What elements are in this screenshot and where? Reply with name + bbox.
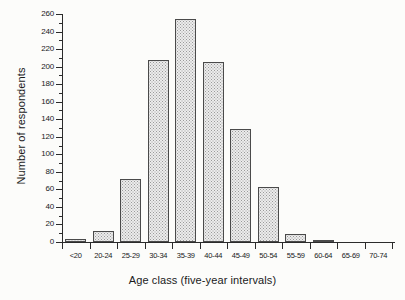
y-tick-mark	[56, 154, 62, 155]
y-tick-mark	[56, 119, 62, 120]
y-tick-label: 260	[41, 10, 54, 18]
y-minor-tick-mark	[59, 75, 62, 76]
bar	[65, 239, 86, 242]
x-tick-mark	[117, 243, 118, 249]
x-tick-mark	[337, 243, 338, 249]
y-tick-label: 0	[50, 238, 54, 246]
y-minor-tick-mark	[59, 198, 62, 199]
y-tick-mark	[56, 84, 62, 85]
plot-area: 020406080100120140160180200220240260	[62, 14, 392, 242]
y-tick-mark	[56, 67, 62, 68]
x-tick-label: 25-29	[122, 252, 140, 260]
y-minor-tick-mark	[59, 110, 62, 111]
bar	[203, 62, 224, 242]
x-axis-ticks	[62, 243, 395, 249]
x-tick-mark	[365, 243, 366, 249]
y-tick-label: 60	[46, 185, 55, 193]
x-tick-mark	[172, 243, 173, 249]
x-tick-label: 60-64	[314, 252, 332, 260]
x-tick-mark	[62, 243, 63, 249]
y-tick-label: 20	[46, 220, 55, 228]
bar	[230, 129, 251, 242]
y-axis-title: Number of respondents	[15, 41, 27, 211]
x-tick-mark	[227, 243, 228, 249]
x-tick-mark	[200, 243, 201, 249]
x-tick-mark	[255, 243, 256, 249]
y-tick-mark	[56, 49, 62, 50]
x-axis-tick-labels: <2020-2425-2930-3435-3940-4445-4950-5455…	[62, 252, 395, 266]
y-tick-mark	[56, 137, 62, 138]
y-minor-tick-mark	[59, 181, 62, 182]
y-minor-tick-mark	[59, 128, 62, 129]
y-tick-mark	[56, 189, 62, 190]
bar	[313, 240, 334, 242]
x-axis-title: Age class (five-year intervals)	[0, 274, 405, 286]
y-tick-mark	[56, 102, 62, 103]
bar	[120, 179, 141, 242]
x-tick-label: 45-49	[232, 252, 250, 260]
y-minor-tick-mark	[59, 233, 62, 234]
chart-figure: Number of respondents 020406080100120140…	[0, 0, 405, 300]
y-tick-label: 200	[41, 63, 54, 71]
x-tick-mark	[282, 243, 283, 249]
y-tick-label: 40	[46, 203, 55, 211]
y-minor-tick-mark	[59, 23, 62, 24]
y-tick-mark	[56, 32, 62, 33]
y-tick-label: 180	[41, 80, 54, 88]
y-minor-tick-mark	[59, 93, 62, 94]
bar	[93, 231, 114, 242]
y-minor-tick-mark	[59, 40, 62, 41]
y-tick-mark	[56, 224, 62, 225]
bar	[258, 187, 279, 242]
y-tick-mark	[56, 14, 62, 15]
y-tick-label: 140	[41, 115, 54, 123]
y-minor-tick-mark	[59, 216, 62, 217]
y-tick-label: 80	[46, 168, 55, 176]
x-tick-label: 35-39	[177, 252, 195, 260]
bar	[285, 234, 306, 242]
y-minor-tick-mark	[59, 58, 62, 59]
y-minor-tick-mark	[59, 146, 62, 147]
bar	[148, 60, 169, 242]
y-tick-label: 100	[41, 150, 54, 158]
x-tick-label: 40-44	[204, 252, 222, 260]
y-tick-label: 220	[41, 45, 54, 53]
x-tick-mark	[310, 243, 311, 249]
x-tick-mark	[145, 243, 146, 249]
y-tick-label: 160	[41, 98, 54, 106]
y-tick-mark	[56, 207, 62, 208]
y-tick-label: 120	[41, 133, 54, 141]
x-tick-label: 50-54	[259, 252, 277, 260]
x-tick-label: 65-69	[342, 252, 360, 260]
x-tick-mark	[392, 243, 393, 249]
x-tick-label: 70-74	[369, 252, 387, 260]
x-tick-label: 30-34	[149, 252, 167, 260]
bar	[175, 19, 196, 242]
x-tick-label: 20-24	[94, 252, 112, 260]
y-tick-label: 240	[41, 28, 54, 36]
y-tick-mark	[56, 172, 62, 173]
x-tick-mark	[90, 243, 91, 249]
y-minor-tick-mark	[59, 163, 62, 164]
x-tick-label: <20	[70, 252, 82, 260]
x-tick-label: 55-59	[287, 252, 305, 260]
